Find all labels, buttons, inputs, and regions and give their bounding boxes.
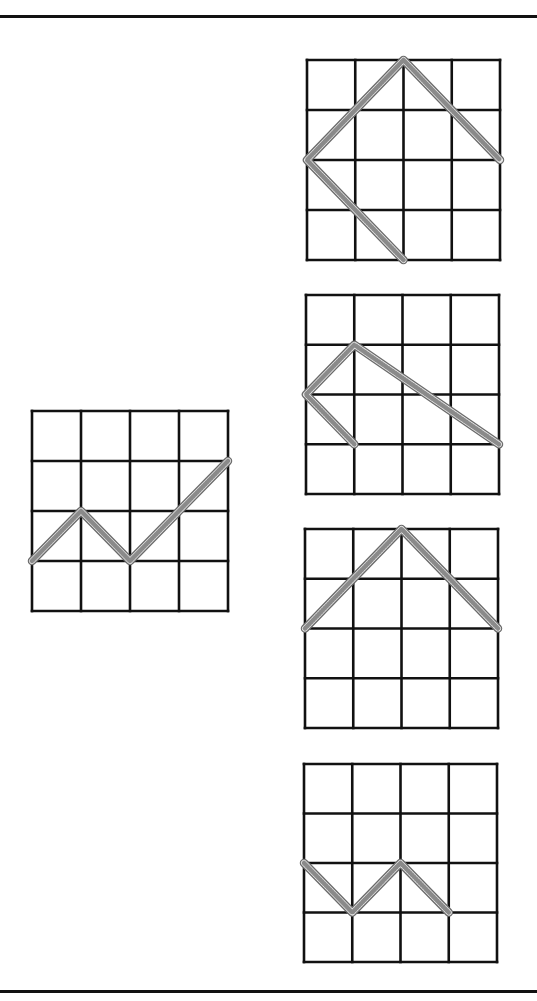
answer-grid-4[interactable] (304, 764, 497, 962)
grid-svg (306, 295, 499, 494)
grid-svg (32, 411, 228, 611)
grid-svg (304, 764, 497, 962)
grid-svg (307, 60, 500, 260)
question-grid (32, 411, 228, 611)
top-rule (0, 15, 537, 18)
answer-grid-3[interactable] (305, 529, 498, 728)
grid-svg (305, 529, 498, 728)
answer-grid-2[interactable] (306, 295, 499, 494)
answer-grid-1[interactable] (307, 60, 500, 260)
bottom-rule (0, 990, 537, 993)
